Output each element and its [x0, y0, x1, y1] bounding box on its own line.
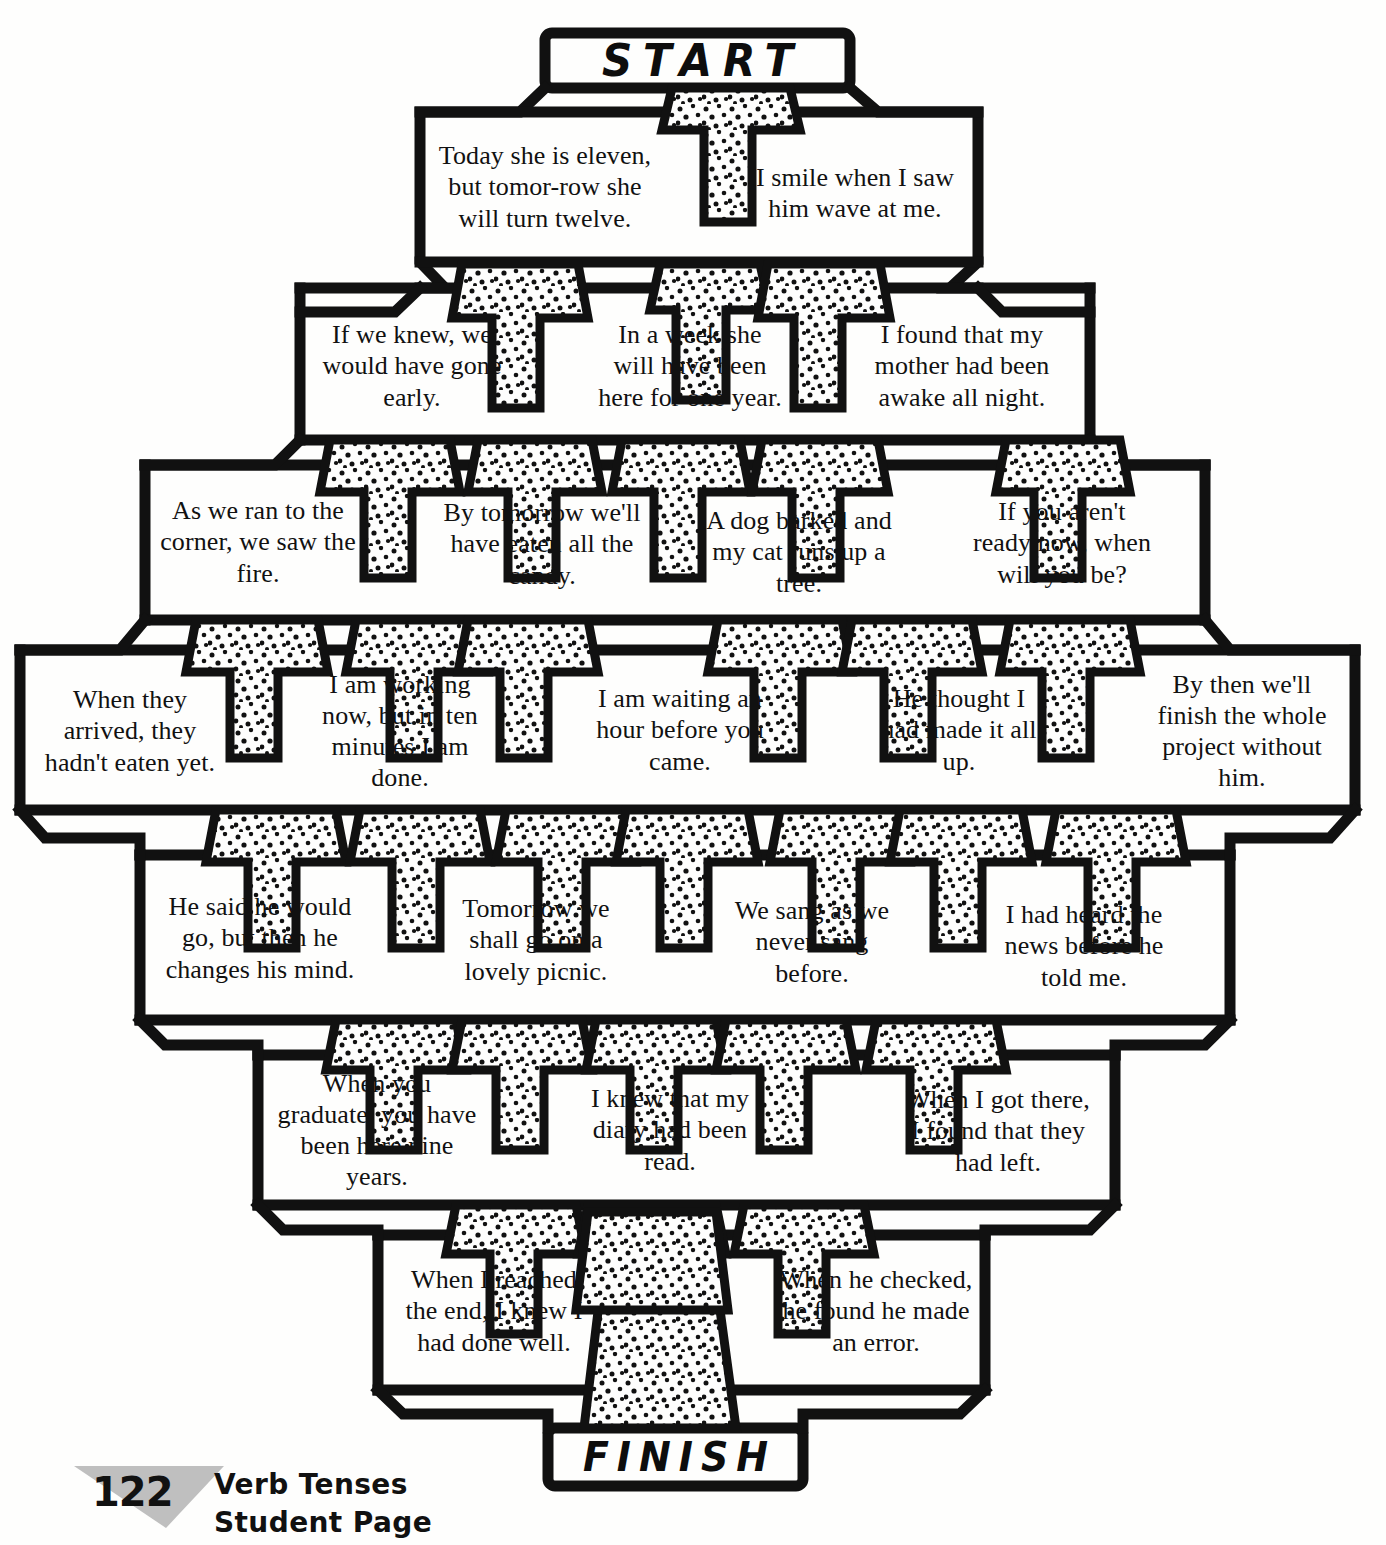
maze-cell[interactable]: Today she is eleven, but tomor-row she w… — [424, 116, 666, 258]
maze-cell[interactable]: In a week she will have been here for on… — [592, 292, 788, 440]
maze-cell[interactable]: By then we'll finish the whole project w… — [1134, 658, 1350, 804]
maze-cell[interactable]: When they arrived, they hadn't eaten yet… — [30, 658, 230, 804]
finish-arrow — [584, 1295, 736, 1428]
maze-cell[interactable]: Tomorrow we shall go on a lovely picnic. — [434, 878, 638, 1002]
footer-line-1: Verb Tenses — [214, 1466, 432, 1504]
footer-label: Verb Tenses Student Page — [214, 1466, 432, 1542]
maze-cell[interactable]: I found that my mother had been awake al… — [848, 292, 1076, 440]
maze-cell[interactable]: He thought I had made it all up. — [866, 668, 1052, 792]
maze-cell[interactable]: If you aren't ready now, when will you b… — [964, 470, 1160, 616]
start-banner-label: START — [545, 29, 850, 90]
worksheet-page: START FINISH Today she is eleven, but to… — [0, 0, 1386, 1545]
maze-cell[interactable]: If we knew, we would have gone early. — [304, 296, 520, 436]
maze-cell[interactable]: By tomorrow we'll have eaten all the can… — [434, 480, 650, 608]
maze-cell[interactable]: When I reached the end, I knew I had don… — [390, 1240, 598, 1382]
maze-cell[interactable]: A dog barked and my cat runs up a tree. — [692, 490, 906, 614]
page-number: 122 — [92, 1469, 173, 1515]
maze-cell[interactable]: I smile when I saw him wave at me. — [736, 128, 974, 258]
maze-cell[interactable]: I am working now, but in ten minutes I a… — [296, 658, 504, 804]
maze-cell[interactable]: When I got there, I found that they had … — [896, 1058, 1100, 1204]
page-footer: 122 Verb Tenses Student Page — [74, 1466, 634, 1542]
maze-cell[interactable]: When you graduate, you have been here ni… — [268, 1060, 486, 1200]
footer-line-2: Student Page — [214, 1504, 432, 1542]
maze-cell[interactable]: When he checked, he found he made an err… — [772, 1240, 980, 1382]
center-wide-arrow — [576, 1212, 728, 1310]
maze-cell[interactable]: He said he would go, but then he changes… — [148, 868, 372, 1008]
maze-cell[interactable]: We sang as we never sang before. — [712, 882, 912, 1002]
maze-cell[interactable]: I knew that my diary had been read. — [580, 1068, 760, 1192]
maze-cell[interactable]: I am waiting an hour before you came. — [580, 668, 780, 792]
maze-cell[interactable]: I had heard the news before he told me. — [976, 886, 1192, 1006]
maze-cell[interactable]: As we ran to the corner, we saw the fire… — [150, 478, 366, 606]
